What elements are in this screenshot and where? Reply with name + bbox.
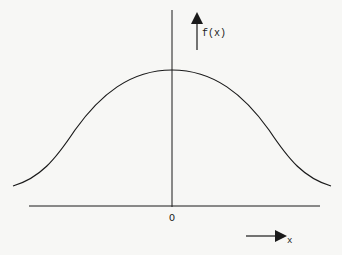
bell-curve-figure: f(x) O x (0, 0, 342, 255)
x-axis-label: x (287, 236, 292, 246)
y-axis-label: f(x) (202, 28, 226, 39)
right-arrow-icon (246, 230, 287, 242)
origin-label: O (169, 213, 175, 224)
